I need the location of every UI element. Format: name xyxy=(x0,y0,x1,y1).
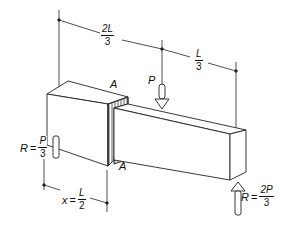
reaction-symbol: R xyxy=(241,191,249,203)
fraction-numerator: L xyxy=(195,49,203,59)
dimension-label-2l-over-3: 2L 3 xyxy=(101,24,114,47)
equals-sign: = xyxy=(70,194,76,206)
reaction-symbol: R xyxy=(20,142,28,154)
fraction-denominator: 3 xyxy=(104,37,112,47)
fraction-numerator: P xyxy=(38,136,47,146)
section-label-bottom: A xyxy=(119,161,126,172)
fraction-numerator: 2L xyxy=(101,24,114,34)
dimension-label-l-over-3: L 3 xyxy=(195,49,203,72)
fraction-denominator: 3 xyxy=(195,62,203,72)
fraction-denominator: 2 xyxy=(78,201,86,211)
load-label-p: P xyxy=(148,75,155,86)
load-arrow-p xyxy=(155,84,169,109)
equals-sign: = xyxy=(30,142,36,154)
fraction-numerator: L xyxy=(78,188,86,198)
bottom-dimension-label: x = L 2 xyxy=(62,188,86,211)
dimension-symbol: x xyxy=(62,194,68,206)
equals-sign: = xyxy=(251,191,257,203)
dimension-fraction: L 2 xyxy=(78,188,86,211)
section-label-top: A xyxy=(110,79,117,90)
reaction-fraction: P 3 xyxy=(38,136,47,159)
fraction-denominator: 3 xyxy=(39,149,47,159)
reaction-fraction: 2P 3 xyxy=(259,185,273,208)
left-support-post xyxy=(53,136,59,158)
fraction-denominator: 3 xyxy=(263,198,271,208)
right-reaction-label: R = 2P 3 xyxy=(241,185,274,208)
beam-right-segment xyxy=(114,104,246,180)
fraction-numerator: 2P xyxy=(259,185,273,195)
left-reaction-label: R = P 3 xyxy=(20,136,47,159)
